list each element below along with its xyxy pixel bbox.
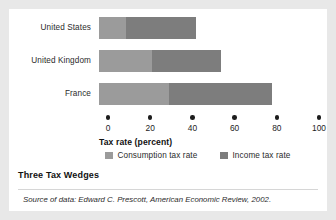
bar-segment-consumption-1 <box>99 50 152 72</box>
x-axis-title: Tax rate (percent) <box>99 137 172 147</box>
axis-tick-dot-2 <box>190 115 195 120</box>
axis-tick-label-4: 80 <box>262 123 292 134</box>
chart-title: Three Tax Wedges <box>18 170 99 180</box>
figure-card: United States United Kingdom France 0 <box>9 9 327 211</box>
axis-tick-label-5: 100 <box>304 123 334 134</box>
axis-tick-label-1: 20 <box>135 123 165 134</box>
bar-track-2 <box>99 83 310 105</box>
bar-segment-income-0 <box>126 17 196 39</box>
bar-segment-consumption-0 <box>99 17 126 39</box>
axis-tick-dot-5 <box>317 115 322 120</box>
category-label-1: United Kingdom <box>9 50 91 72</box>
legend-swatch-income <box>220 152 228 160</box>
table-row: United Kingdom <box>9 50 327 72</box>
axis-tick-label-0: 0 <box>93 123 123 134</box>
category-label-2: France <box>9 83 91 105</box>
axis-tick-label-2: 40 <box>177 123 207 134</box>
bar-segment-income-1 <box>152 50 222 72</box>
axis-tick-dot-4 <box>275 115 280 120</box>
axis-tick-dot-0 <box>106 115 111 120</box>
axis-tick-label-3: 60 <box>220 123 250 134</box>
legend-item-consumption: Consumption tax rate <box>105 151 197 160</box>
legend-item-income: Income tax rate <box>220 151 290 160</box>
legend-swatch-consumption <box>105 152 113 160</box>
bar-segment-income-2 <box>169 83 272 105</box>
legend-label-consumption: Consumption tax rate <box>118 151 198 160</box>
source-note: Source of data: Edward C. Prescott, Amer… <box>23 195 271 204</box>
bar-track-0 <box>99 17 310 39</box>
table-row: United States <box>9 17 327 39</box>
axis-tick-dot-1 <box>148 115 153 120</box>
bar-track-1 <box>99 50 310 72</box>
legend-label-income: Income tax rate <box>233 151 291 160</box>
chart-plot-area: United States United Kingdom France <box>9 17 327 113</box>
table-row: France <box>9 83 327 105</box>
axis-tick-dot-3 <box>232 115 237 120</box>
divider <box>18 189 318 190</box>
bar-segment-consumption-2 <box>99 83 169 105</box>
category-label-0: United States <box>9 17 91 39</box>
